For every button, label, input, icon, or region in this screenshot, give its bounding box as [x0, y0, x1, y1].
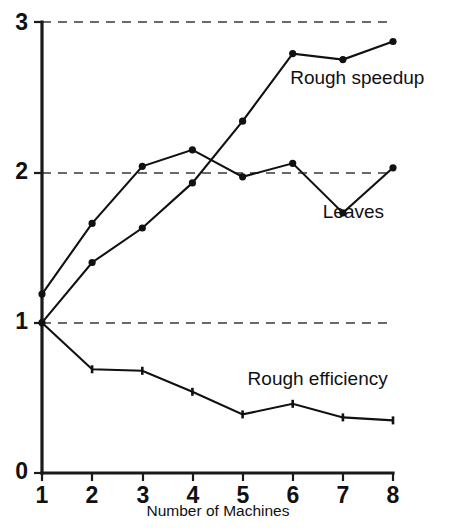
series-label-leaves: Leaves [323, 201, 384, 222]
series-layer [38, 38, 396, 425]
data-point [339, 56, 346, 63]
data-point [289, 160, 296, 167]
data-point [191, 388, 194, 396]
line-chart-canvas: 0 1 2 3 1 2 3 4 5 6 7 8 Number of Machin… [0, 0, 461, 529]
data-point [389, 38, 396, 45]
x-tick-label-8: 8 [387, 482, 400, 508]
axes [34, 22, 393, 481]
chart-figure: 0 1 2 3 1 2 3 4 5 6 7 8 Number of Machin… [0, 0, 461, 529]
data-point [41, 319, 44, 327]
series-inline-labels: Rough speedupLeavesRough efficiency [248, 67, 425, 389]
x-axis-title: Number of Machines [146, 502, 289, 519]
y-tick-label-2: 2 [15, 158, 28, 184]
data-point [239, 173, 246, 180]
data-point [289, 50, 296, 57]
data-point [89, 220, 96, 227]
data-point [389, 164, 396, 171]
data-point [189, 179, 196, 186]
y-tick-labels: 0 1 2 3 [15, 9, 28, 484]
series-leaves [38, 146, 396, 298]
data-point [89, 259, 96, 266]
data-point [38, 291, 45, 298]
y-tick-label-1: 1 [15, 308, 28, 334]
data-point [291, 400, 294, 408]
x-tick-label-1: 1 [36, 482, 49, 508]
x-tick-label-2: 2 [86, 482, 99, 508]
data-point [392, 416, 395, 424]
series-label-rough-speedup: Rough speedup [290, 67, 424, 88]
data-point [139, 163, 146, 170]
series-label-rough-efficiency: Rough efficiency [248, 368, 389, 389]
data-point [141, 367, 144, 375]
data-point [139, 224, 146, 231]
data-point [241, 410, 244, 418]
data-point [189, 146, 196, 153]
data-point [91, 365, 94, 373]
data-point [239, 118, 246, 125]
y-tick-label-0: 0 [15, 458, 28, 484]
y-tick-label-3: 3 [15, 9, 28, 35]
data-point [342, 413, 345, 421]
x-tick-label-7: 7 [337, 482, 350, 508]
